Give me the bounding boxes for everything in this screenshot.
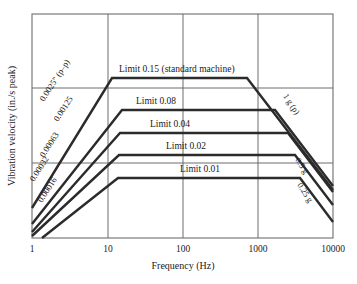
x-tick-1000: 1000	[249, 244, 268, 254]
chart-container: Limit 0.15 (standard machine) Limit 0.08…	[0, 0, 357, 284]
x-tick-1: 1	[30, 244, 35, 254]
vibration-severity-chart: Limit 0.15 (standard machine) Limit 0.08…	[0, 0, 357, 284]
label-limit-0-15: Limit 0.15 (standard machine)	[119, 64, 235, 75]
label-limit-0-02: Limit 0.02	[166, 141, 206, 151]
label-limit-0-04: Limit 0.04	[150, 119, 190, 129]
x-tick-100: 100	[176, 244, 191, 254]
x-tick-10: 10	[103, 244, 113, 254]
label-limit-0-08: Limit 0.08	[136, 96, 176, 106]
label-limit-0-01: Limit 0.01	[180, 164, 220, 174]
y-axis-title: Vibration velocity (in./s peak)	[6, 66, 18, 186]
x-axis-title: Frequency (Hz)	[151, 260, 214, 272]
x-tick-10000: 10000	[321, 244, 345, 254]
